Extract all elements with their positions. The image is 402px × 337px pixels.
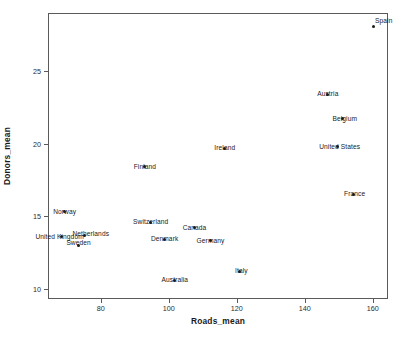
data-point-label: Italy [235, 268, 248, 275]
data-point-marker [209, 239, 212, 242]
data-point-marker [223, 147, 226, 150]
scatter-plot-figure: SpainAustriaBelgiumUnited StatesIrelandF… [0, 0, 402, 337]
data-point-marker [326, 93, 329, 96]
data-point-label: Netherlands [72, 231, 109, 238]
x-axis-tick [237, 299, 238, 303]
y-axis-tick-label: 15 [33, 212, 41, 221]
data-point-marker [77, 244, 80, 247]
y-axis-tick [44, 71, 48, 72]
y-axis-label: Donors_mean [2, 127, 12, 185]
y-axis-tick-label: 20 [33, 139, 41, 148]
y-axis-tick [44, 144, 48, 145]
x-axis-tick-label: 120 [231, 304, 243, 313]
x-axis-tick-label: 160 [367, 304, 379, 313]
x-axis-tick [373, 299, 374, 303]
data-point-label: United States [319, 143, 360, 150]
x-axis-tick [101, 299, 102, 303]
data-point-marker [352, 193, 355, 196]
y-axis-tick [44, 289, 48, 290]
plot-area: SpainAustriaBelgiumUnited StatesIrelandF… [48, 13, 388, 299]
x-axis-tick-label: 140 [299, 304, 311, 313]
data-point-marker [143, 165, 146, 168]
data-point-marker [193, 226, 196, 229]
y-axis-tick-label: 10 [33, 284, 41, 293]
x-axis-tick [305, 299, 306, 303]
data-point-marker [341, 117, 344, 120]
data-point-marker [372, 25, 375, 28]
y-axis-label-container: Donors_mean [0, 13, 14, 299]
x-axis-tick-label: 80 [97, 304, 105, 313]
data-point-marker [163, 238, 166, 241]
data-point-label: Spain [375, 18, 392, 25]
x-axis-label: Roads_mean [48, 316, 388, 326]
data-point-marker [238, 270, 241, 273]
data-point-marker [60, 235, 63, 238]
data-point-label: Belgium [333, 116, 358, 123]
data-point-marker [173, 279, 176, 282]
x-axis-tick [169, 299, 170, 303]
x-axis-tick-label: 100 [163, 304, 175, 313]
data-point-marker [149, 221, 152, 224]
y-axis-tick-label: 25 [33, 67, 41, 76]
data-point-marker [336, 145, 339, 148]
data-point-marker [83, 234, 86, 237]
y-axis-tick [44, 216, 48, 217]
data-point-marker [63, 210, 66, 213]
